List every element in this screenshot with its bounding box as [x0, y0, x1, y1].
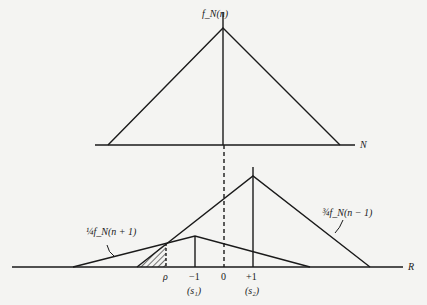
tick-sublabel-s1: (s₁): [187, 286, 201, 296]
tick-label-plus-one: +1: [246, 272, 257, 282]
left-label-pointer: [107, 245, 115, 257]
right-label-pointer: [335, 220, 343, 233]
small-triangle-quarter: [73, 236, 310, 267]
tick-label-rho: ρ: [163, 272, 168, 282]
top-function-label: f_N(n): [202, 9, 228, 19]
top-triangle: [108, 28, 340, 145]
tick-sublabel-s2: (s₂): [245, 286, 259, 296]
right-curve-label: ¾f_N(n − 1): [322, 208, 372, 218]
diagram: [0, 0, 427, 305]
r-axis-label: R: [408, 262, 414, 272]
tick-label-minus-one: −1: [189, 272, 200, 282]
left-curve-label: ¼f_N(n + 1): [86, 227, 136, 237]
tick-label-zero: 0: [221, 272, 226, 282]
n-axis-label: N: [360, 140, 367, 150]
